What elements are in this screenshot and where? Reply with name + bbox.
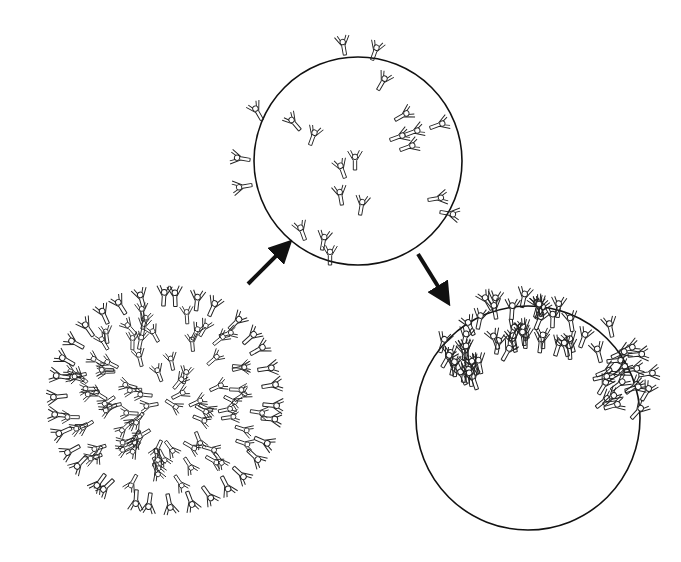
antibody-icon: [62, 331, 88, 355]
cell-coated: [46, 285, 284, 516]
antibody-icon: [93, 331, 114, 353]
cell-capped: [416, 286, 661, 530]
antibody-icon: [58, 439, 83, 462]
antibody-icon: [261, 376, 284, 395]
antibody-icon: [167, 286, 183, 307]
antibody-icon: [128, 489, 145, 511]
antibody-icon: [92, 302, 115, 327]
antibody-capping-diagram: [0, 0, 681, 562]
antibody-icon: [215, 473, 238, 498]
antibody-icon: [252, 431, 277, 453]
antibody-icon: [262, 397, 284, 414]
antibody-icon: [46, 388, 68, 405]
antibody-icon: [202, 294, 225, 319]
arrow-1-icon: [248, 248, 284, 284]
antibody-icon: [234, 434, 255, 452]
antibody-icon: [49, 421, 74, 443]
antibody-icon: [163, 351, 180, 371]
antibody-icon: [229, 149, 251, 167]
antibody-icon: [177, 365, 194, 385]
cell-dispersed: [229, 34, 462, 265]
antibody-icon: [207, 377, 229, 397]
antibody-icon: [135, 317, 151, 337]
antibody-icon: [48, 367, 71, 385]
arrow-2-icon: [418, 254, 444, 296]
antibody-icon: [169, 384, 191, 404]
antibody-icon: [257, 359, 280, 377]
antibody-icon: [197, 482, 222, 508]
antibody-icon: [162, 395, 184, 416]
antibody-icon: [233, 420, 254, 438]
antibody-icon: [108, 292, 132, 318]
antibody-icon: [140, 492, 158, 515]
antibody-icon: [180, 306, 194, 325]
antibody-icon: [247, 337, 273, 361]
antibody-icon: [139, 397, 159, 413]
antibody-icon: [224, 309, 250, 334]
antibody-icon: [180, 489, 202, 514]
antibody-icon: [52, 348, 78, 372]
antibody-icon: [334, 34, 352, 56]
antibody-icon: [149, 362, 168, 383]
antibody-icon: [203, 348, 225, 370]
antibody-icon: [160, 492, 179, 515]
antibody-icon: [191, 410, 213, 429]
antibody-icon: [228, 462, 254, 487]
diagram-stage: [0, 0, 681, 562]
antibody-icon: [179, 454, 200, 476]
antibody-icon: [181, 437, 203, 457]
antibody-icon: [160, 437, 181, 459]
antibody-icon: [122, 472, 142, 494]
antibody-icon: [188, 289, 206, 311]
antibody-icon: [231, 178, 253, 196]
antibody-icon: [144, 323, 164, 345]
antibody-icon: [131, 347, 148, 368]
cell-membrane: [254, 57, 462, 265]
antibody-icon: [156, 285, 173, 307]
antibody-icon: [170, 472, 191, 494]
